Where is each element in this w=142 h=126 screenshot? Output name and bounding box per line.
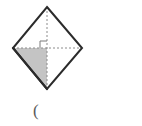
caption-paren: ( — [33, 99, 57, 123]
rhombus-figure — [0, 0, 142, 126]
figure-background — [0, 0, 142, 126]
